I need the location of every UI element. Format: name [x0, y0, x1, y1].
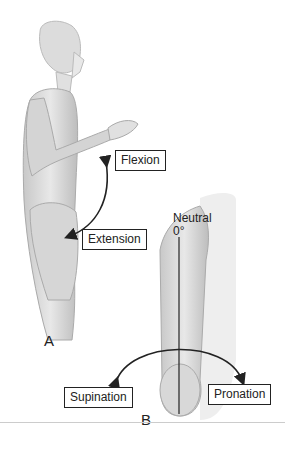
supination-label: Supination [64, 387, 133, 408]
neutral-degree-label: 0° [173, 225, 184, 238]
panel-b-letter: B [141, 411, 151, 428]
pronation-label: Pronation [208, 384, 271, 405]
bottom-divider [0, 422, 285, 423]
panel-a-letter: A [44, 332, 54, 349]
extension-label: Extension [82, 229, 147, 250]
flexion-label: Flexion [115, 150, 166, 171]
woman-figure [23, 21, 138, 340]
